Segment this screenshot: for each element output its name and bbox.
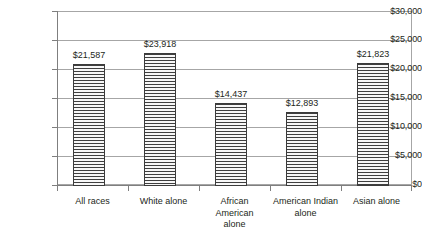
x-category-label-asian-alone: Asian alone [341, 196, 412, 208]
x-tick-mark-5 [411, 186, 412, 191]
bar-american-indian-alone[interactable] [286, 112, 318, 186]
bar-african-american-alone[interactable] [215, 103, 247, 186]
y-tick-label-30000: $30,000 [370, 7, 422, 16]
y-tick-mark-5000 [52, 156, 57, 157]
bar-white-alone[interactable] [144, 53, 176, 186]
gridline-25000 [58, 40, 411, 41]
x-category-label-african-american-alone: African American alone [204, 196, 265, 231]
y-tick-label-25000: $25,000 [370, 35, 422, 44]
bar-value-label-asian-alone: $21,823 [343, 49, 403, 59]
bar-all-races[interactable] [73, 64, 105, 186]
x-tick-mark-0 [57, 186, 58, 191]
x-tick-mark-3 [270, 186, 271, 191]
x-tick-mark-4 [341, 186, 342, 191]
x-tick-mark-2 [199, 186, 200, 191]
y-tick-mark-15000 [52, 98, 57, 99]
y-tick-mark-10000 [52, 127, 57, 128]
bar-value-label-all-races: $21,587 [59, 50, 119, 60]
x-tick-mark-1 [128, 186, 129, 191]
y-tick-mark-30000 [52, 11, 57, 12]
x-category-label-all-races: All races [57, 196, 128, 208]
bar-asian-alone[interactable] [357, 63, 389, 186]
bar-value-label-african-american-alone: $14,437 [201, 89, 261, 99]
bar-value-label-american-indian-alone: $12,893 [272, 98, 332, 108]
bar-value-label-white-alone: $23,918 [130, 39, 190, 49]
x-category-label-american-indian-alone: American Indian alone [272, 196, 339, 219]
y-axis-line [57, 11, 58, 186]
y-tick-mark-20000 [52, 69, 57, 70]
x-category-label-white-alone: White alone [128, 196, 199, 208]
bar-chart: $30,000 $25,000 $20,000 $15,000 $10,000 … [0, 0, 422, 245]
y-tick-mark-25000 [52, 40, 57, 41]
